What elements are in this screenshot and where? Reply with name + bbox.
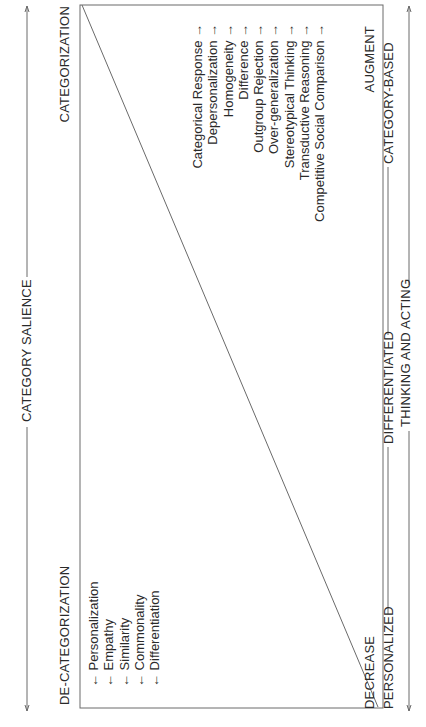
- category-based-label: CATEGORY-BASED: [382, 42, 395, 164]
- thinking-and-acting-label: THINKING AND ACTING: [399, 279, 412, 427]
- list-item: Depersonalization →: [205, 24, 220, 222]
- de-categorization-label: DE-CATEGORIZATION: [58, 566, 71, 705]
- list-item: ← Empathy: [101, 582, 116, 688]
- list-item: Transductive Reasoning →: [297, 24, 312, 222]
- category-salience-label: CATEGORY SALIENCE: [20, 279, 33, 422]
- list-item: Categorical Response →: [190, 24, 205, 222]
- list-item: ← Differentiation: [147, 582, 162, 688]
- decrease-label: DECREASE: [363, 636, 376, 709]
- list-item: Homogeneity →: [221, 24, 236, 222]
- list-item: ← Personalization: [86, 582, 101, 688]
- list-item: Over-generalization →: [266, 24, 281, 222]
- decategorization-items: ← Personalization ← Empathy ← Similarity…: [86, 582, 162, 688]
- list-item: Difference →: [236, 24, 251, 222]
- list-item: Outgroup Rejection →: [251, 24, 266, 222]
- personalized-label: PERSONALIZED: [382, 606, 395, 709]
- categorization-items: Categorical Response → Depersonalization…: [190, 24, 328, 222]
- categorization-label: CATEGORIZATION: [58, 6, 71, 122]
- list-item: Stereotypical Thinking →: [282, 24, 297, 222]
- augment-label: AUGMENT: [363, 26, 376, 92]
- list-item: ← Similarity: [117, 582, 132, 688]
- list-item: ← Commonality: [132, 582, 147, 688]
- list-item: Competitive Social Comparison →: [312, 24, 327, 222]
- differentiated-label: DIFFERENTIATED: [382, 331, 395, 444]
- diagram-canvas: CATEGORY SALIENCE DE-CATEGORIZATION CATE…: [0, 0, 426, 727]
